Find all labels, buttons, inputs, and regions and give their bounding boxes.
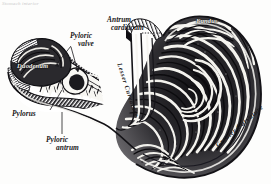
- plate-caption: Stomach interior: [2, 0, 39, 7]
- label-pyloric-antrum-line2: antrum: [46, 144, 79, 152]
- label-antrum-cardiacum-line2: cardiacum: [107, 24, 144, 32]
- label-pyloric-valve: Pyloric valve: [70, 32, 94, 49]
- label-antrum-cardiacum: Antrum cardiacum: [107, 16, 144, 33]
- anatomical-plate: Stomach interior Antrum cardiacum Pylori…: [0, 0, 271, 184]
- label-fundus: Fundus: [196, 17, 218, 24]
- label-pyloric-valve-line2: valve: [70, 40, 94, 48]
- label-duodenum: Duodenum: [17, 62, 48, 69]
- label-pylorus: Pylorus: [12, 110, 36, 118]
- label-pyloric-antrum: Pyloric antrum: [46, 136, 79, 153]
- label-pylorus-line1: Pylorus: [12, 109, 36, 118]
